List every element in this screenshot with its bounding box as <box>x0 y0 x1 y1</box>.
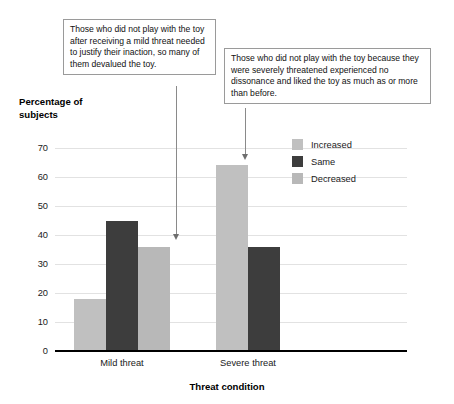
y-axis-tick-label: 70 <box>38 143 48 153</box>
y-axis-title: Percentage of subjects <box>19 96 149 121</box>
legend-swatch-same <box>292 156 303 167</box>
y-axis-tick-label: 20 <box>38 288 48 298</box>
legend-label: Decreased <box>311 174 356 184</box>
annotation-callout-mild-threat: Those who did not play with the toy afte… <box>63 19 216 75</box>
legend-swatch-decreased <box>292 173 303 184</box>
legend-label: Same <box>311 157 335 167</box>
x-axis-title: Threat condition <box>0 381 454 392</box>
legend-label: Increased <box>311 140 352 150</box>
annotation-callout-severe-threat: Those who did not play with the toy beca… <box>224 48 431 104</box>
legend-item-decreased: Decreased <box>292 170 356 187</box>
arrow-shaft <box>176 86 177 236</box>
bar-severe-threat-same <box>248 247 280 351</box>
y-axis-tick-label: 60 <box>38 172 48 182</box>
y-axis-tick-label: 10 <box>38 317 48 327</box>
y-axis-tick-label: 40 <box>38 230 48 240</box>
arrow-head-icon <box>242 154 248 160</box>
y-axis-tick-label: 0 <box>43 346 48 356</box>
y-axis-tick-label: 30 <box>38 259 48 269</box>
arrow-shaft <box>245 108 246 156</box>
legend-item-same: Same <box>292 153 356 170</box>
chart-legend: IncreasedSameDecreased <box>292 136 356 187</box>
y-axis-tick-label: 50 <box>38 201 48 211</box>
x-axis-label-mild-threat: Mild threat <box>100 358 143 368</box>
arrow-head-icon <box>173 234 179 240</box>
legend-item-increased: Increased <box>292 136 356 153</box>
bar-mild-threat-increased <box>74 299 106 351</box>
legend-swatch-increased <box>292 139 303 150</box>
y-axis-title-line-1: Percentage of <box>19 96 149 109</box>
bar-mild-threat-same <box>106 221 138 352</box>
y-axis-title-line-2: subjects <box>19 109 149 122</box>
bar-mild-threat-decreased <box>138 247 170 351</box>
bar-severe-threat-increased <box>216 165 248 351</box>
x-axis-label-severe-threat: Severe threat <box>220 358 276 368</box>
x-axis-line <box>55 350 407 352</box>
